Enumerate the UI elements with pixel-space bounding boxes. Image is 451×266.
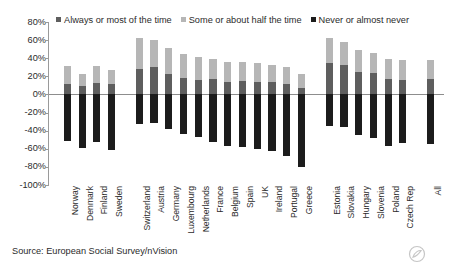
source-note: Source: European Social Survey/nVision xyxy=(12,246,177,257)
bar-segment-some-or-about-half-the-time xyxy=(150,40,157,67)
bar-slovakia[interactable] xyxy=(340,22,347,185)
bar-uk[interactable] xyxy=(254,22,261,185)
bar-segment-always-or-most-of-the-time xyxy=(209,79,216,94)
bar-segment-always-or-most-of-the-time xyxy=(355,72,362,95)
bar-segment-always-or-most-of-the-time xyxy=(180,78,187,94)
bar-segment-some-or-about-half-the-time xyxy=(340,42,347,65)
y-axis-tick-labels: 80%60%40%20%0%-20%-40%-60%-80%-100% xyxy=(0,22,46,185)
bar-segment-always-or-most-of-the-time xyxy=(93,83,100,95)
y-tick-label: -40% xyxy=(2,126,46,135)
bar-segment-never-or-almost-never xyxy=(195,94,202,137)
bar-spain[interactable] xyxy=(239,22,246,185)
bar-segment-never-or-almost-never xyxy=(239,94,246,147)
bar-segment-never-or-almost-never xyxy=(224,94,231,146)
y-tick-label: -20% xyxy=(2,108,46,117)
bar-finland[interactable] xyxy=(93,22,100,185)
bar-segment-some-or-about-half-the-time xyxy=(209,59,216,79)
x-label-switzerland: Switzerland xyxy=(143,186,152,230)
bar-segment-some-or-about-half-the-time xyxy=(180,54,187,78)
bar-ireland[interactable] xyxy=(268,22,275,185)
bar-segment-never-or-almost-never xyxy=(399,94,406,143)
bar-segment-some-or-about-half-the-time xyxy=(427,60,434,79)
bar-belgium[interactable] xyxy=(224,22,231,185)
y-axis-tick xyxy=(45,113,49,114)
bar-segment-some-or-about-half-the-time xyxy=(370,53,377,73)
circular-logo-watermark-icon xyxy=(408,245,426,263)
x-label-uk: UK xyxy=(261,186,270,198)
y-axis-tick xyxy=(45,40,49,41)
bar-segment-some-or-about-half-the-time xyxy=(399,60,406,80)
bar-segment-some-or-about-half-the-time xyxy=(268,65,275,82)
y-axis-tick xyxy=(45,94,49,95)
bar-germany[interactable] xyxy=(165,22,172,185)
bar-segment-always-or-most-of-the-time xyxy=(340,65,347,95)
bar-segment-never-or-almost-never xyxy=(340,94,347,127)
bar-segment-never-or-almost-never xyxy=(254,94,261,148)
bar-poland[interactable] xyxy=(385,22,392,185)
y-axis-tick xyxy=(45,22,49,23)
bar-norway[interactable] xyxy=(64,22,71,185)
x-label-slovakia: Slovakia xyxy=(347,186,356,218)
x-label-luxembourg: Luxembourg xyxy=(187,186,196,234)
x-label-ireland: Ireland xyxy=(275,186,284,212)
bar-segment-some-or-about-half-the-time xyxy=(355,50,362,72)
x-label-belgium: Belgium xyxy=(231,186,240,217)
bar-switzerland[interactable] xyxy=(136,22,143,185)
y-tick-label: -100% xyxy=(2,181,46,190)
bar-slovenia[interactable] xyxy=(370,22,377,185)
x-label-norway: Norway xyxy=(71,186,80,215)
bar-segment-never-or-almost-never xyxy=(298,94,305,166)
bar-segment-always-or-most-of-the-time xyxy=(370,73,377,95)
bar-segment-some-or-about-half-the-time xyxy=(195,57,202,80)
bar-greece[interactable] xyxy=(298,22,305,185)
bar-segment-never-or-almost-never xyxy=(355,94,362,135)
x-label-france: France xyxy=(216,186,225,213)
x-label-portugal: Portugal xyxy=(290,186,299,218)
bar-portugal[interactable] xyxy=(283,22,290,185)
bar-segment-always-or-most-of-the-time xyxy=(165,74,172,95)
bar-czech-rep[interactable] xyxy=(399,22,406,185)
bar-segment-some-or-about-half-the-time xyxy=(136,38,143,69)
bar-segment-never-or-almost-never xyxy=(268,94,275,150)
bar-segment-never-or-almost-never xyxy=(150,94,157,122)
bar-hungary[interactable] xyxy=(355,22,362,185)
bar-segment-some-or-about-half-the-time xyxy=(93,66,100,82)
bar-all[interactable] xyxy=(427,22,434,185)
bar-segment-always-or-most-of-the-time xyxy=(268,82,275,95)
bar-segment-never-or-almost-never xyxy=(108,94,115,149)
y-axis-tick xyxy=(45,131,49,132)
bar-estonia[interactable] xyxy=(326,22,333,185)
bar-segment-always-or-most-of-the-time xyxy=(195,80,202,94)
bar-segment-always-or-most-of-the-time xyxy=(150,67,157,94)
y-tick-label: 80% xyxy=(2,18,46,27)
bar-segment-some-or-about-half-the-time xyxy=(298,74,305,88)
y-tick-label: -60% xyxy=(2,144,46,153)
bar-segment-always-or-most-of-the-time xyxy=(254,82,261,95)
bar-luxembourg[interactable] xyxy=(180,22,187,185)
bar-sweden[interactable] xyxy=(108,22,115,185)
bar-segment-always-or-most-of-the-time xyxy=(224,82,231,95)
y-axis-tick xyxy=(45,76,49,77)
bar-segment-never-or-almost-never xyxy=(427,94,434,144)
bar-segment-some-or-about-half-the-time xyxy=(108,70,115,84)
bar-netherlands[interactable] xyxy=(195,22,202,185)
bar-segment-always-or-most-of-the-time xyxy=(79,86,86,94)
bar-denmark[interactable] xyxy=(79,22,86,185)
y-tick-label: 60% xyxy=(2,36,46,45)
bar-segment-never-or-almost-never xyxy=(326,94,333,126)
bar-austria[interactable] xyxy=(150,22,157,185)
bar-segment-some-or-about-half-the-time xyxy=(239,62,246,81)
x-label-greece: Greece xyxy=(305,186,314,214)
y-tick-label: -80% xyxy=(2,162,46,171)
x-label-austria: Austria xyxy=(157,186,166,213)
bar-segment-some-or-about-half-the-time xyxy=(224,62,231,82)
bar-segment-some-or-about-half-the-time xyxy=(79,74,86,87)
bar-segment-never-or-almost-never xyxy=(209,94,216,142)
bar-segment-never-or-almost-never xyxy=(64,94,71,140)
chart-plot-area xyxy=(48,22,444,185)
x-label-germany: Germany xyxy=(172,186,181,221)
bar-segment-always-or-most-of-the-time xyxy=(283,84,290,95)
bar-france[interactable] xyxy=(209,22,216,185)
x-label-finland: Finland xyxy=(100,186,109,214)
x-label-poland: Poland xyxy=(392,186,401,213)
